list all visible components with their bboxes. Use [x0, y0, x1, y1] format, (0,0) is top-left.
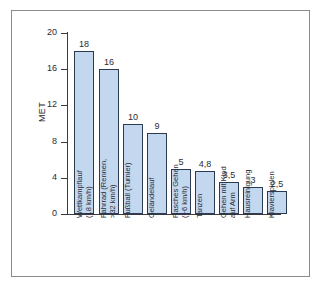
y-tick-20: 20	[61, 33, 68, 34]
y-tick-mark	[61, 33, 68, 34]
y-tick-label: 8	[52, 135, 57, 147]
x-label-gelaendelauf: Geländelauf	[148, 152, 157, 218]
y-tick-label: 16	[47, 62, 57, 74]
y-tick-mark	[61, 142, 68, 143]
figure-root: MET 0 4 8 12 16 20 18	[0, 0, 321, 290]
y-tick-16: 16	[61, 69, 68, 70]
y-tick-mark	[61, 69, 68, 70]
y-tick-8: 8	[61, 142, 68, 143]
y-tick-label: 12	[47, 98, 57, 110]
y-tick-mark	[61, 178, 68, 179]
x-label-rasches-gehen: Rasches Gehen (~6 km/h)	[172, 152, 189, 218]
bar-value-label: 9	[154, 121, 159, 132]
y-tick-4: 4	[61, 178, 68, 179]
x-label-fahrrad-rennen: Fahrrad (Rennen, >32 km/h)	[100, 152, 117, 218]
bar-value-label: 18	[79, 39, 89, 50]
y-tick-label: 4	[52, 171, 57, 183]
y-tick-mark	[61, 105, 68, 106]
chart-frame: MET 0 4 8 12 16 20 18	[11, 10, 310, 277]
y-tick-label: 0	[52, 207, 57, 219]
x-label-hausreinigung: Hausreinigung	[244, 152, 253, 218]
bar-value-label: 16	[104, 57, 114, 68]
y-tick-label: 20	[47, 26, 57, 38]
y-tick-12: 12	[61, 105, 68, 106]
x-label-gehen-mit-kind: Gehen mit Kind auf Arm	[220, 152, 237, 218]
y-tick-0: 0	[61, 214, 68, 215]
x-label-klavierspielen: Klavierspielen	[268, 152, 277, 218]
y-axis-title: MET	[37, 102, 47, 122]
x-label-fussball-turnier: Fußball (Turnier)	[124, 152, 133, 218]
x-label-tanzen: Tanzen	[196, 152, 205, 218]
bar-value-label: 10	[128, 112, 138, 123]
x-label-wettkampflauf: Wettkampflauf (18 km/h)	[76, 152, 93, 218]
y-tick-mark	[61, 214, 68, 215]
